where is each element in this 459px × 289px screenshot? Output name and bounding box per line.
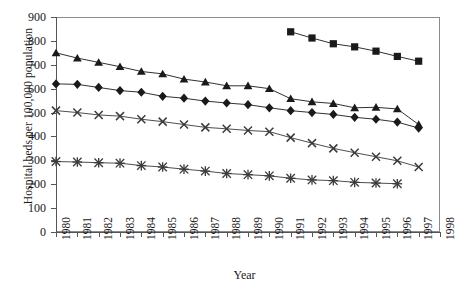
x-tick-mark xyxy=(163,232,164,237)
x-tick-label: 1987 xyxy=(210,217,222,240)
x-tick-mark xyxy=(184,232,185,237)
y-tick-mark xyxy=(51,113,56,114)
y-tick-label: 700 xyxy=(0,59,46,71)
x-tick-mark xyxy=(312,232,313,237)
x-tick-mark xyxy=(99,232,100,237)
x-tick-mark xyxy=(376,232,377,237)
x-tick-mark xyxy=(77,232,78,237)
x-tick-label: 1992 xyxy=(317,217,329,240)
y-tick-label: 100 xyxy=(0,202,46,214)
y-tick-mark xyxy=(51,65,56,66)
y-tick-mark xyxy=(51,136,56,137)
x-tick-mark xyxy=(205,232,206,237)
x-tick-label: 1991 xyxy=(295,217,307,240)
y-tick-mark xyxy=(51,160,56,161)
x-tick-mark xyxy=(419,232,420,237)
x-tick-label: 1983 xyxy=(125,217,137,240)
y-tick-mark xyxy=(51,89,56,90)
plot-area xyxy=(56,17,440,232)
x-tick-label: 1990 xyxy=(274,217,286,240)
y-tick-label: 400 xyxy=(0,130,46,142)
y-tick-mark xyxy=(51,17,56,18)
x-tick-label: 1993 xyxy=(338,217,350,240)
y-axis-line xyxy=(56,17,57,233)
y-tick-label: 300 xyxy=(0,154,46,166)
x-tick-mark xyxy=(141,232,142,237)
y-tick-label: 500 xyxy=(0,107,46,119)
x-tick-mark xyxy=(269,232,270,237)
x-tick-label: 1998 xyxy=(445,217,457,240)
x-tick-mark xyxy=(355,232,356,237)
x-tick-mark xyxy=(333,232,334,237)
x-tick-label: 1982 xyxy=(103,217,115,240)
x-axis-label: Year xyxy=(0,268,459,283)
x-tick-mark xyxy=(56,232,57,237)
y-tick-label: 600 xyxy=(0,83,46,95)
y-tick-label: 800 xyxy=(0,35,46,47)
x-tick-label: 1995 xyxy=(381,217,393,240)
y-tick-mark xyxy=(51,208,56,209)
y-tick-label: 900 xyxy=(0,11,46,23)
x-tick-label: 1997 xyxy=(423,217,435,240)
x-tick-label: 1986 xyxy=(189,217,201,240)
x-tick-label: 1988 xyxy=(231,217,243,240)
chart-figure: Hospital beds per 100,000 population 010… xyxy=(0,0,459,289)
x-tick-label: 1981 xyxy=(82,217,94,240)
x-tick-label: 1989 xyxy=(253,217,265,240)
x-tick-mark xyxy=(397,232,398,237)
y-tick-mark xyxy=(51,184,56,185)
y-tick-label: 200 xyxy=(0,178,46,190)
x-tick-mark xyxy=(291,232,292,237)
y-tick-label: 0 xyxy=(0,226,46,238)
x-tick-mark xyxy=(248,232,249,237)
x-tick-mark xyxy=(227,232,228,237)
x-tick-label: 1985 xyxy=(167,217,179,240)
x-tick-mark xyxy=(440,232,441,237)
y-tick-mark xyxy=(51,41,56,42)
x-tick-label: 1980 xyxy=(61,217,73,240)
x-tick-label: 1994 xyxy=(359,217,371,240)
x-tick-label: 1984 xyxy=(146,217,158,240)
x-tick-mark xyxy=(120,232,121,237)
x-tick-label: 1996 xyxy=(402,217,414,240)
